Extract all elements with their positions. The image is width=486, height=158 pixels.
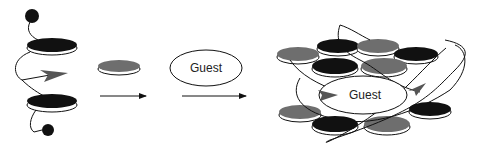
diagram-canvas: Guest Guest [0, 0, 486, 158]
guest-component: Guest [170, 50, 242, 86]
gray-disc-component [98, 60, 140, 75]
host-guest-assembly: Guest [277, 25, 465, 142]
strand-component [15, 9, 77, 136]
assembly-guest-label: Guest [349, 88, 382, 102]
bottom-bead [42, 124, 54, 136]
guest-label: Guest [190, 61, 223, 75]
top-bead [25, 9, 39, 23]
black-disc [27, 94, 77, 108]
black-disc [27, 38, 77, 52]
